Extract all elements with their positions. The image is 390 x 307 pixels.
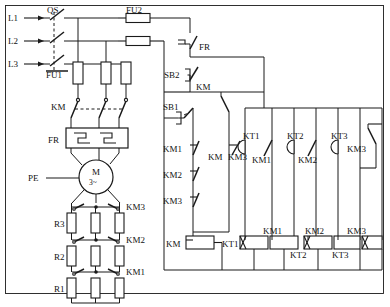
km1-aux-contact[interactable] <box>264 140 272 156</box>
short-km2-label: KM2 <box>126 235 145 245</box>
km-seal-label: KM <box>196 82 211 92</box>
resistor-r1-b <box>91 278 100 298</box>
motor-circle <box>79 160 113 194</box>
sb1-label: SB1 <box>163 102 179 112</box>
km1-pivot-b <box>117 273 120 276</box>
kt3-contact-label: KT3 <box>331 131 348 141</box>
km2-pivot-a <box>73 241 76 244</box>
km2-aux-label: KM2 <box>298 155 317 165</box>
kt2-timed-contact[interactable] <box>287 140 294 154</box>
r2-label: R2 <box>54 252 65 262</box>
coil-kt1-label: KT1 <box>222 239 239 249</box>
km2-pivot-b <box>117 241 120 244</box>
resistor-r3-a <box>67 213 76 233</box>
km-main-label: KM <box>51 102 66 112</box>
fr-overload-relay <box>66 128 128 153</box>
km3-pivot-b <box>117 208 120 211</box>
motor-letter: M <box>92 167 100 177</box>
fu1-main-fuses <box>73 18 131 99</box>
schematic-canvas: L1 L2 L3 QS <box>0 0 390 307</box>
rotor-stage-1: KM1 R1 <box>54 267 145 303</box>
r1-label: R1 <box>54 284 65 294</box>
km2-nc-label: KM2 <box>163 170 182 180</box>
km1-nc-label: KM1 <box>163 144 182 154</box>
coil-km-label: KM <box>166 239 181 249</box>
kt2-delay-arc <box>287 140 294 154</box>
short-km1-label: KM1 <box>126 267 145 277</box>
km3-pivot-a <box>73 208 76 211</box>
fr-nc-contact[interactable] <box>178 36 197 57</box>
km3-hold-label: KM3 <box>347 144 367 154</box>
supply-label-l3: L3 <box>8 59 18 69</box>
fr-contact-label: FR <box>199 42 210 52</box>
km-parallel-label: KM <box>208 152 223 162</box>
coil-km1-label: KM1 <box>263 226 282 236</box>
fuse-fu1-c <box>121 62 131 84</box>
coil-kt1-body[interactable] <box>240 236 268 249</box>
kt1-contact-label: KT1 <box>243 131 260 141</box>
km-seal-in-contact[interactable] <box>221 92 229 118</box>
arrow-l3 <box>38 62 44 67</box>
coil-km3-label: KM3 <box>347 226 367 236</box>
motor-phase-label: 3~ <box>89 178 97 187</box>
kt3-delay-arc <box>331 140 338 154</box>
coil-km1-body[interactable] <box>270 236 298 249</box>
diagram-border <box>6 6 384 294</box>
km-interlock-chain[interactable] <box>190 118 229 240</box>
km2-aux-contact[interactable] <box>308 140 316 156</box>
arrow-l1 <box>38 16 44 21</box>
qs-label: QS <box>47 5 59 15</box>
km1-pivot-a <box>73 273 76 276</box>
coil-row: KM KT1 KM1 KT2 KM2 <box>164 226 382 270</box>
fuse-fu1-a <box>73 62 83 84</box>
fr-relay-label: FR <box>48 135 59 145</box>
supply-label-l1: L1 <box>8 13 18 23</box>
arrow-l2 <box>38 39 44 44</box>
fuse-fu2-b <box>126 37 150 46</box>
resistor-r2-c <box>115 246 124 266</box>
coil-kt3-label: KT3 <box>332 250 349 260</box>
pe-label: PE <box>28 173 39 183</box>
r3-label: R3 <box>54 219 65 229</box>
fuse-fu1-b <box>101 62 111 84</box>
resistor-r1-c <box>115 278 124 298</box>
coil-km2-label: KM2 <box>305 226 324 236</box>
supply-lines <box>24 16 44 67</box>
sb2-label: SB2 <box>164 70 180 80</box>
supply-label-l2: L2 <box>8 36 18 46</box>
resistor-r3-b <box>91 213 100 233</box>
fuse-fu2-a <box>126 14 150 23</box>
circuit-diagram: L1 L2 L3 QS <box>0 0 390 307</box>
junction-r1 <box>94 270 98 274</box>
coil-kt2-label: KT2 <box>290 250 307 260</box>
resistor-r2-b <box>91 246 100 266</box>
fu1-label: FU1 <box>46 70 62 80</box>
qs-disconnect-switch[interactable] <box>44 9 126 71</box>
km1-aux-label: KM1 <box>252 155 271 165</box>
resistor-r3-c <box>115 213 124 233</box>
fu2-control-fuses <box>118 14 190 271</box>
kt3-timed-contact[interactable] <box>331 140 338 154</box>
resistor-r2-a <box>67 246 76 266</box>
resistor-r1-a <box>67 278 76 298</box>
junction-r2 <box>94 238 98 242</box>
fr-relay-body <box>66 128 128 148</box>
kt2-contact-label: KT2 <box>287 131 304 141</box>
km3-nc-label: KM3 <box>163 196 183 206</box>
coil-km-body[interactable] <box>186 236 214 249</box>
km-main-contacts[interactable] <box>71 98 128 128</box>
short-km3-label: KM3 <box>126 202 146 212</box>
